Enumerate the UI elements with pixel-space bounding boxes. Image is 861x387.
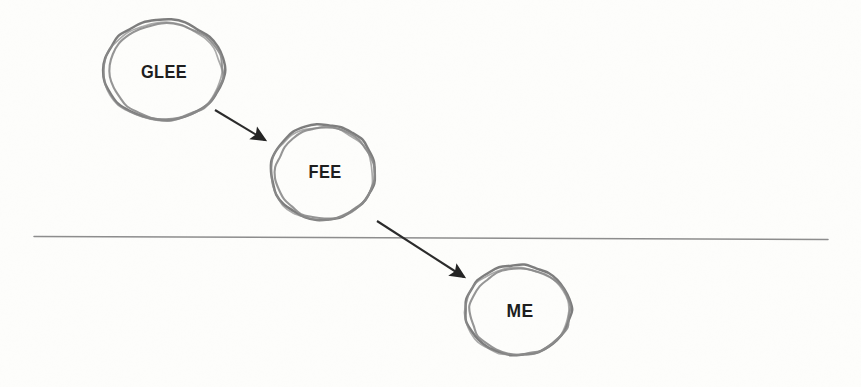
diagram-canvas: GLEEFEEME xyxy=(0,0,861,387)
diagram-vector-layer xyxy=(0,0,861,387)
baseline-group xyxy=(34,237,828,240)
arrow-glee-to-fee[interactable] xyxy=(215,110,265,140)
node-label-me: ME xyxy=(506,300,533,322)
horizontal-baseline xyxy=(34,237,828,240)
node-label-glee: GLEE xyxy=(141,61,187,83)
node-label-fee: FEE xyxy=(308,161,341,183)
arrow-fee-to-me[interactable] xyxy=(377,221,464,277)
arrows-layer xyxy=(215,110,464,277)
